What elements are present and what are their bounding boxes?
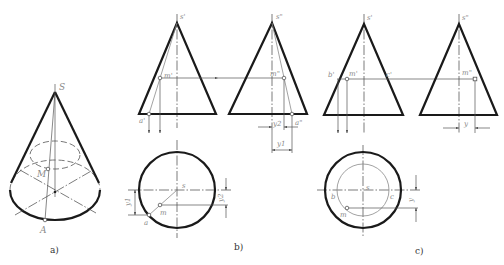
label-a-top: a — [144, 219, 148, 227]
dim-y-top-label: y — [407, 197, 415, 203]
caption-a: a) — [50, 245, 59, 255]
side-a-marker — [290, 112, 294, 116]
label-a: A — [39, 225, 47, 235]
panel-c-auxiliary-circle-method: s' b' m' c' s" m" y s b c m y c) — [317, 14, 497, 256]
label-s-double-c: s" — [462, 14, 469, 22]
side-m-marker-c — [473, 77, 477, 81]
label-m-double: m" — [270, 70, 280, 78]
base-center-point — [54, 191, 57, 194]
label-m-prime-c: m' — [349, 70, 358, 78]
label-s-prime-c: s' — [367, 14, 373, 22]
top-a-marker — [147, 213, 151, 217]
dim-y2-top-label: y2 — [217, 193, 225, 203]
dim-y2-label: y2 — [272, 120, 282, 128]
base-centerline-2 — [20, 170, 96, 213]
label-c-top: c — [390, 193, 394, 201]
front-m-marker — [158, 76, 162, 80]
dim-y1-top-label: y1 — [124, 198, 132, 207]
label-a-double: a" — [295, 119, 302, 127]
label-s: S — [59, 82, 65, 92]
label-b-top: b — [331, 193, 336, 201]
point-a-marker — [43, 218, 47, 222]
caption-b: b) — [234, 242, 243, 252]
caption-c: c) — [415, 246, 424, 256]
label-a-prime: a' — [139, 117, 145, 125]
cone-projection-figure: S M A a) s' m' a' s" m" a" y2 — [0, 0, 504, 265]
label-m-top-c: m — [340, 211, 347, 219]
label-b-prime: b' — [328, 71, 334, 79]
front-view-triangle-c — [324, 24, 403, 115]
label-s-top: s — [182, 182, 186, 190]
panel-b-generatrix-method: s' m' a' s" m" a" y2 y1 s m a y1 — [124, 13, 307, 252]
top-m-marker-c — [345, 206, 349, 210]
label-m-top: m — [160, 209, 167, 217]
front-generatrix — [149, 23, 177, 114]
side-view-triangle-c — [420, 24, 497, 115]
cone-right-edge — [55, 92, 99, 183]
side-m-marker — [282, 76, 286, 80]
top-m-marker — [158, 203, 162, 207]
label-s-top-c: s — [366, 184, 370, 192]
label-m: M — [36, 169, 47, 179]
label-s-double: s" — [276, 13, 283, 21]
label-c-prime: c' — [386, 71, 392, 79]
dim-y1-label: y1 — [276, 140, 285, 148]
dim-y-side-label: y — [463, 120, 469, 128]
point-m-marker — [46, 167, 50, 171]
label-s-prime: s' — [180, 13, 186, 21]
front-view-triangle — [139, 23, 216, 114]
panel-a-cone-pictorial: S M A a) — [10, 82, 100, 255]
front-a-marker — [147, 112, 151, 116]
side-view-triangle — [229, 23, 307, 114]
label-m-double-c: m" — [462, 69, 472, 77]
label-m-prime: m' — [164, 72, 173, 80]
